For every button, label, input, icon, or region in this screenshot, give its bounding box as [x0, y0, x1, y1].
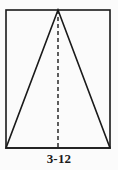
figure-container: 3-12: [0, 0, 118, 170]
geometry-diagram: [0, 0, 118, 170]
bounding-rectangle: [6, 10, 110, 148]
figure-caption: 3-12: [0, 151, 118, 167]
inscribed-triangle: [6, 10, 110, 148]
